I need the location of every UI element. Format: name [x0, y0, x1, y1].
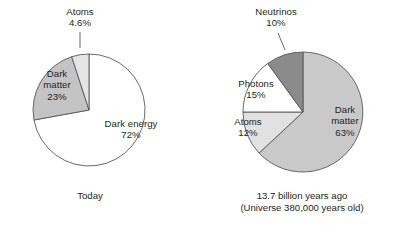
caption-early-universe: 13.7 billion years ago (Universe 380,000…: [229, 190, 375, 213]
label-dark-matter-today-name1: Dark: [28, 68, 86, 79]
caption-today-line1: Today: [44, 190, 136, 202]
label-photons-name: Photons: [224, 78, 288, 89]
label-dark-matter-early-name1: Dark: [316, 104, 374, 115]
caption-early-line1: 13.7 billion years ago: [229, 190, 375, 202]
label-dark-matter-today-name2: matter: [28, 79, 86, 90]
label-neutrinos-name: Neutrinos: [232, 6, 320, 17]
label-dark-matter-today: Dark matter 23%: [28, 68, 86, 102]
pie-chart-early-universe: [243, 33, 363, 172]
label-atoms-early: Atoms 12%: [218, 116, 278, 139]
label-dark-matter-early-name2: matter: [316, 115, 374, 126]
label-photons-value: 15%: [224, 89, 288, 100]
label-atoms-today-name: Atoms: [42, 6, 118, 17]
label-atoms-early-name: Atoms: [218, 116, 278, 127]
label-dark-energy-name: Dark energy: [84, 118, 178, 129]
label-dark-energy-today: Dark energy 72%: [84, 118, 178, 141]
caption-early-line2: (Universe 380,000 years old): [229, 202, 375, 214]
label-photons: Photons 15%: [224, 78, 288, 101]
label-atoms-today: Atoms 4.6%: [42, 6, 118, 29]
label-neutrinos: Neutrinos 10%: [232, 6, 320, 29]
label-dark-energy-value: 72%: [84, 129, 178, 140]
label-atoms-today-value: 4.6%: [42, 17, 118, 28]
label-dark-matter-early-value: 63%: [316, 127, 374, 138]
label-dark-matter-early: Dark matter 63%: [316, 104, 374, 138]
label-dark-matter-today-value: 23%: [28, 91, 86, 102]
label-neutrinos-value: 10%: [232, 17, 320, 28]
cosmic-composition-figure: Atoms 4.6% Dark matter 23% Dark energy 7…: [0, 0, 396, 228]
label-atoms-early-value: 12%: [218, 127, 278, 138]
caption-today: Today: [44, 190, 136, 202]
leader-line-neutrinos: [278, 33, 285, 50]
